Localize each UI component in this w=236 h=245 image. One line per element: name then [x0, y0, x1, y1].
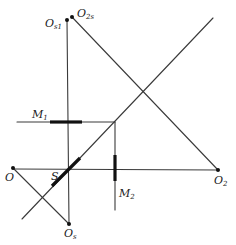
label-o2: O2 [214, 174, 228, 188]
point-os1 [65, 18, 69, 22]
rising-diagonal-line [22, 18, 213, 219]
point-o2s [70, 15, 74, 19]
point-o [11, 166, 15, 170]
label-o2s: O2s [77, 7, 94, 21]
label-m1: M1 [31, 108, 48, 122]
falling-diagonal-line [72, 17, 218, 170]
optics-diagram: Os1 O2s M1 M2 O S O2 Os [0, 0, 236, 245]
label-m2: M2 [118, 187, 135, 201]
label-os1: Os1 [45, 17, 62, 31]
point-os [67, 222, 71, 226]
label-s: S [51, 170, 59, 183]
point-o2 [216, 168, 220, 172]
label-o: O [5, 171, 14, 184]
label-os: Os [64, 227, 77, 241]
